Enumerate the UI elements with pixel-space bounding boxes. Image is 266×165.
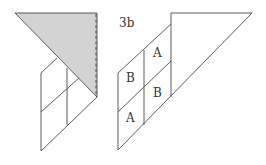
figure-label: 3b (119, 16, 135, 30)
shaded-fold-triangle (15, 13, 97, 97)
cell-label-bottom-left: A (125, 111, 135, 125)
cell-label-top-right: A (152, 46, 162, 60)
cell-label-bottom-right: B (153, 86, 162, 100)
right-figure (118, 13, 252, 150)
diagram-canvas: 3b B A B A (0, 0, 266, 165)
cell-label-top-left: B (126, 71, 135, 85)
